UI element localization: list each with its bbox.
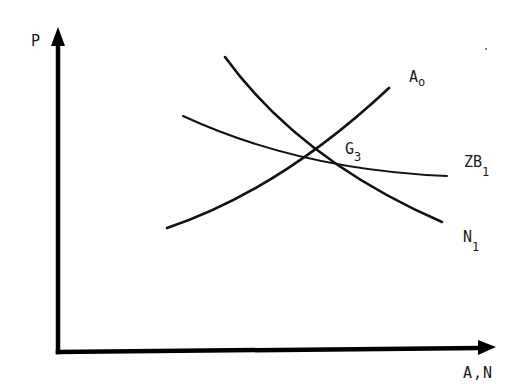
- label-g3: G3: [345, 140, 361, 164]
- label-zb1-sub: 1: [482, 165, 489, 179]
- curve-zb1: [183, 116, 447, 176]
- label-g3-main: G: [345, 140, 354, 158]
- label-n1-main: N: [463, 228, 472, 246]
- x-axis-arrow-icon: [478, 340, 496, 355]
- label-a0: Ao: [409, 68, 425, 89]
- supply-demand-diagram: P A,N Ao G3 ZB1 N1: [0, 0, 531, 384]
- y-axis: [51, 27, 65, 352]
- label-a0-main: A: [409, 68, 418, 86]
- label-n1-sub: 1: [472, 240, 479, 254]
- stray-mark: [485, 48, 487, 50]
- x-axis-line: [58, 348, 480, 352]
- y-axis-label: P: [31, 32, 40, 50]
- label-n1: N1: [463, 228, 479, 254]
- label-g3-sub: 3: [354, 150, 361, 164]
- y-axis-arrow-icon: [51, 27, 65, 46]
- x-axis: [58, 340, 496, 355]
- x-axis-label: A,N: [463, 364, 493, 382]
- label-a0-sub: o: [418, 75, 425, 89]
- label-zb1: ZB1: [464, 153, 489, 179]
- label-zb1-main: ZB: [464, 153, 482, 171]
